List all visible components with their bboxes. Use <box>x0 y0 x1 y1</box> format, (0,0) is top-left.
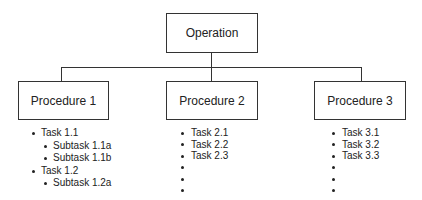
bullet-icon <box>332 143 335 146</box>
task-label: Task 3.2 <box>342 139 379 151</box>
ellipsis-bullet <box>0 173 422 185</box>
ellipsis-bullet <box>0 185 422 197</box>
operation-label: Operation <box>186 26 239 40</box>
task-label: Task 3.1 <box>342 127 379 139</box>
operation-box: Operation <box>166 13 258 53</box>
root-connector-line <box>211 53 212 67</box>
ellipsis-bullet <box>0 162 422 174</box>
task-label: Task 3.3 <box>342 150 379 162</box>
procedure-3-connector-line <box>361 67 362 81</box>
procedure-3-task-list: Task 3.1 Task 3.2 Task 3.3 <box>0 127 422 197</box>
hierarchy-diagram: Operation Procedure 1 Procedure 2 Proced… <box>0 0 422 200</box>
procedure-3-box: Procedure 3 <box>314 81 406 120</box>
bullet-icon <box>332 178 335 181</box>
procedure-2-label: Procedure 2 <box>179 94 244 108</box>
procedure-2-connector-line <box>211 67 212 81</box>
procedure-1-connector-line <box>61 67 62 81</box>
procedure-1-box: Procedure 1 <box>18 81 109 120</box>
bullet-icon <box>332 132 335 135</box>
bullet-icon <box>332 166 335 169</box>
procedure-3-label: Procedure 3 <box>327 94 392 108</box>
task-item: Task 3.3 <box>0 150 422 162</box>
bullet-icon <box>332 155 335 158</box>
task-item: Task 3.2 <box>0 139 422 151</box>
procedure-2-box: Procedure 2 <box>166 81 258 120</box>
task-item: Task 3.1 <box>0 127 422 139</box>
procedure-1-label: Procedure 1 <box>31 94 96 108</box>
bullet-icon <box>332 189 335 192</box>
